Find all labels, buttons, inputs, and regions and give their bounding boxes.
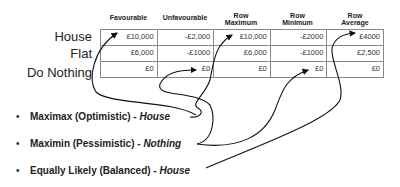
header-row-maximum: Row Maximum <box>213 12 269 26</box>
table-cell: £10,000 <box>214 30 271 46</box>
table-cell: -£1000 <box>157 46 214 62</box>
table-cell: £4000 <box>327 30 384 46</box>
table-cell: £0 <box>214 62 271 78</box>
criterion-answer: House <box>139 111 170 122</box>
arrow-nothing-unfavourable <box>160 70 213 144</box>
criterion-equally-likely: •Equally Likely (Balanced) - House <box>16 165 190 177</box>
header-line1: Row <box>326 12 384 19</box>
header-row-average: Row Average <box>326 12 384 26</box>
header-line2: Maximum <box>213 19 269 26</box>
criterion-answer: Nothing <box>143 138 181 149</box>
header-line1: Unfavourable <box>157 14 213 21</box>
header-row-minimum: Row Minimum <box>269 12 326 26</box>
criterion-maximin: •Maximin (Pessimistic) - Nothing <box>16 138 181 150</box>
criterion-label: Equally Likely (Balanced) - <box>30 165 159 176</box>
criterion-maximax: •Maximax (Optimistic) - House <box>16 111 170 123</box>
bullet-icon: • <box>16 165 30 177</box>
row-label-flat: Flat <box>0 47 92 61</box>
table-cell: £10,000 <box>101 30 158 46</box>
payoff-table: £10,000 -£2,000 £10,000 -£2000 £4000 £6,… <box>100 29 384 78</box>
bullet-icon: • <box>16 138 30 150</box>
bullet-icon: • <box>16 111 30 123</box>
header-line2: Minimum <box>269 19 326 26</box>
header-line1: Row <box>269 12 326 19</box>
table-cell: £0 <box>101 62 158 78</box>
table-cell: £0 <box>270 62 327 78</box>
table-cell: £0 <box>157 62 214 78</box>
criterion-label: Maximin (Pessimistic) - <box>30 138 143 149</box>
header-line1: Favourable <box>100 14 157 21</box>
table-cell: £6,000 <box>101 46 158 62</box>
criterion-answer: House <box>159 165 190 176</box>
criterion-label: Maximax (Optimistic) - <box>30 111 139 122</box>
table-cell: £6,000 <box>214 46 271 62</box>
table-row: £6,000 -£1000 £6,000 -£1000 £2,500 <box>101 46 384 62</box>
header-unfavourable: Unfavourable <box>157 14 213 21</box>
table-row: £0 £0 £0 £0 £0 <box>101 62 384 78</box>
header-line2: Average <box>326 19 384 26</box>
table-cell: £2,500 <box>327 46 384 62</box>
table-cell: -£2,000 <box>157 30 214 46</box>
header-favourable: Favourable <box>100 14 157 21</box>
table-cell: £0 <box>327 62 384 78</box>
arrow-maximin-to-row-minimum <box>197 70 308 145</box>
table-row: £10,000 -£2,000 £10,000 -£2000 £4000 <box>101 30 384 46</box>
row-label-house: House <box>0 30 92 44</box>
table-cell: -£2000 <box>270 30 327 46</box>
header-line1: Row <box>213 12 269 19</box>
row-label-do-nothing: Do Nothing <box>0 66 92 80</box>
table-cell: -£1000 <box>270 46 327 62</box>
